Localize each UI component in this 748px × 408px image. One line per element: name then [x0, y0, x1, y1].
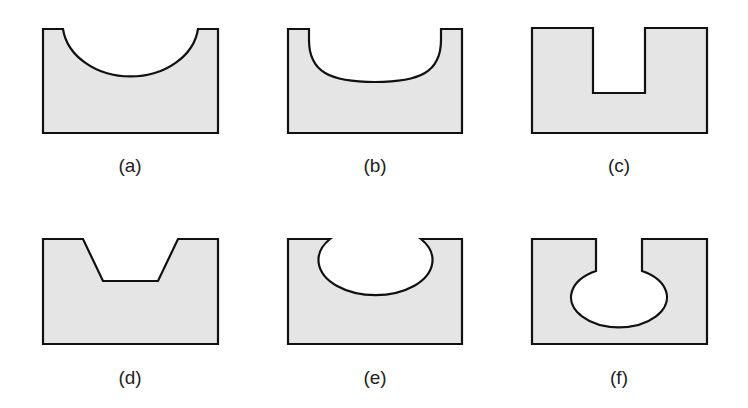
- panel-f: (f): [532, 239, 707, 388]
- panel-label-e: (e): [363, 367, 386, 388]
- panel-label-b: (b): [363, 155, 386, 176]
- panel-c: (c): [532, 28, 707, 176]
- u-shaped-groove-shape: [288, 29, 462, 133]
- groove-profiles-figure: (a) (b) (c) (d) (e) (f): [0, 0, 748, 408]
- panel-label-a: (a): [118, 155, 141, 176]
- trapezoidal-groove-shape: [43, 239, 218, 344]
- keyhole-slot-shape: [532, 239, 707, 344]
- semicircular-groove-shape: [43, 29, 218, 133]
- panel-label-f: (f): [610, 367, 628, 388]
- panel-a: (a): [43, 29, 218, 176]
- panel-label-c: (c): [608, 155, 630, 176]
- panel-d: (d): [43, 239, 218, 388]
- panel-e: (e): [288, 239, 462, 388]
- rectangular-slot-shape: [532, 28, 707, 133]
- panel-b: (b): [288, 29, 462, 176]
- panel-label-d: (d): [118, 367, 141, 388]
- elliptical-groove-shape: [288, 239, 462, 344]
